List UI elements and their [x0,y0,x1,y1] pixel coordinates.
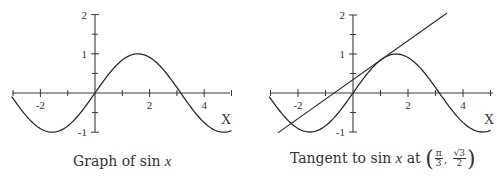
point-y-fraction: √32 [453,149,466,168]
caption-func: sin [140,153,161,169]
frac-den: 2 [456,159,462,168]
x-tick-label: -2 [293,99,302,111]
point-x-fraction: π3 [435,149,443,168]
frac-den: 3 [436,159,442,168]
y-tick-label: 1 [82,48,88,60]
y-tick-label: 1 [340,48,346,60]
caption-func: sin [370,150,391,166]
chart-panel-sin: -224-112X Graph of sin x [0,0,248,191]
x-tick-label: 2 [405,99,411,111]
tangent-line [278,13,447,133]
x-axis-label: X [221,112,231,127]
y-tick-label: -1 [78,126,87,138]
x-tick-label: -2 [36,99,45,111]
caption-tangent-graph: Tangent to sin x at (π3, √32) [290,146,476,171]
sin-graph: -224-112X [0,0,248,150]
y-tick-label: 2 [340,9,346,21]
paren-close: ) [467,146,476,171]
chart-panel-tangent: -224-112X Tangent to sin x at (π3, √32) [248,0,497,191]
caption-text: Tangent to [290,150,370,166]
caption-sin-graph: Graph of sin x [73,153,172,170]
caption-text: Graph of [73,153,140,169]
caption-var: x [165,153,172,169]
paren-open: ( [425,146,434,171]
x-axis-label: X [484,112,494,127]
y-tick-label: -1 [336,126,345,138]
caption-at: at [402,150,425,166]
x-tick-label: 2 [147,99,153,111]
x-tick-label: 4 [460,99,466,111]
comma: , [444,153,448,166]
y-tick-label: 2 [82,9,88,21]
tangent-graph: -224-112X [248,0,497,150]
x-tick-label: 4 [201,99,207,111]
